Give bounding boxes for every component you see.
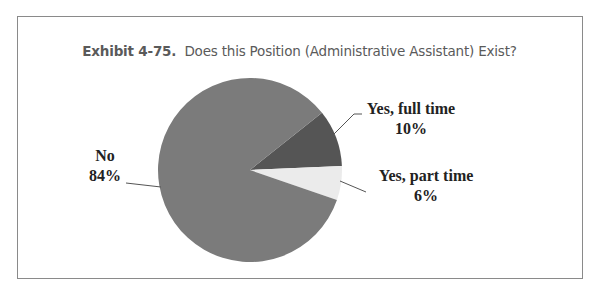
label-part-time-pct: 6% [370, 186, 482, 206]
label-full-time-name: Yes, full time [358, 99, 464, 119]
leader-line-no [126, 183, 161, 187]
label-full-time: Yes, full time 10% [358, 99, 464, 139]
label-no-name: No [82, 146, 128, 166]
label-no-pct: 84% [82, 166, 128, 186]
label-part-time: Yes, part time 6% [370, 166, 482, 206]
label-full-time-pct: 10% [358, 119, 464, 139]
label-no: No 84% [82, 146, 128, 186]
leader-line-part-time [340, 181, 366, 192]
label-part-time-name: Yes, part time [370, 166, 482, 186]
